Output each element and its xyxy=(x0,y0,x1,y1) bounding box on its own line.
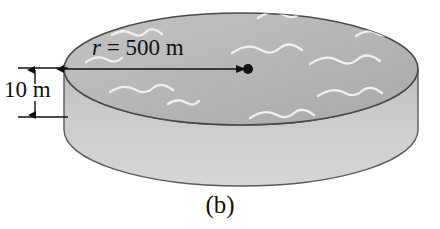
radius-label: r = 500 m xyxy=(92,36,184,59)
figure-caption: (b) xyxy=(0,192,440,217)
radius-equals: = xyxy=(101,35,125,60)
height-label: 10 m xyxy=(4,78,51,101)
radius-symbol: r xyxy=(92,35,101,60)
radius-value: 500 m xyxy=(125,35,183,60)
figure-container: r = 500 m 10 m (b) xyxy=(0,0,440,229)
